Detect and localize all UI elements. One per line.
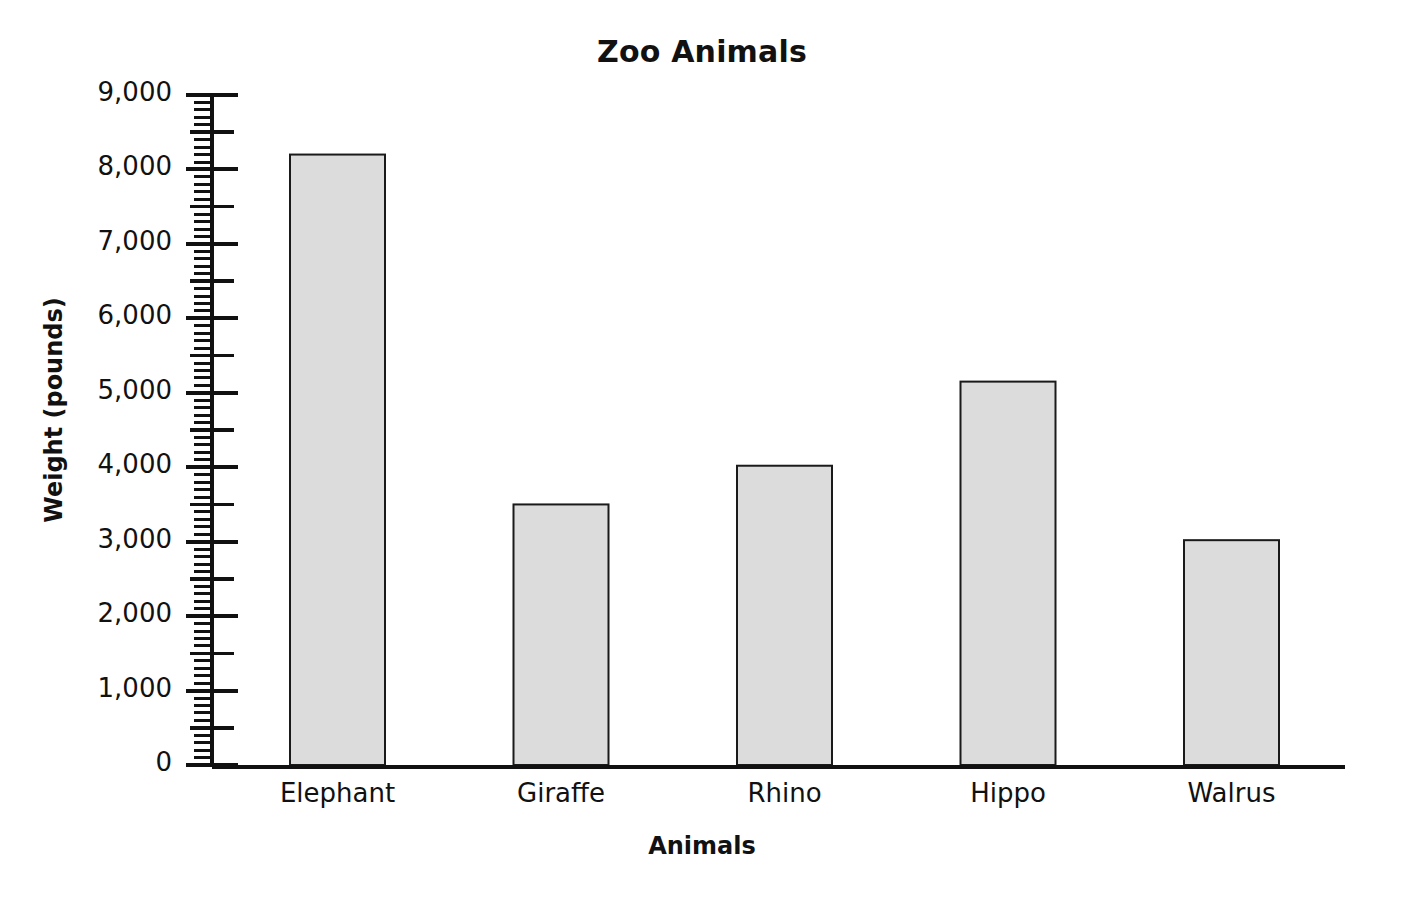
x-tick-label: Walrus xyxy=(1122,778,1342,808)
plot-area xyxy=(0,0,1404,901)
y-tick-label: 4,000 xyxy=(32,449,172,479)
y-tick-label: 0 xyxy=(32,747,172,777)
bar xyxy=(290,155,385,765)
y-tick-label: 6,000 xyxy=(32,300,172,330)
x-tick-label: Giraffe xyxy=(451,778,671,808)
y-tick-label: 2,000 xyxy=(32,598,172,628)
x-tick-label: Elephant xyxy=(228,778,448,808)
bar xyxy=(961,382,1056,765)
x-tick-label: Hippo xyxy=(898,778,1118,808)
y-tick-label: 7,000 xyxy=(32,226,172,256)
bar xyxy=(1184,540,1279,765)
chart-container: Zoo Animals Weight (pounds) Animals 01,0… xyxy=(0,0,1404,901)
bar xyxy=(514,504,609,765)
y-tick-label: 3,000 xyxy=(32,524,172,554)
y-tick-label: 9,000 xyxy=(32,77,172,107)
bars-group xyxy=(290,155,1279,765)
y-tick-label: 5,000 xyxy=(32,375,172,405)
bar xyxy=(737,466,832,765)
x-tick-label: Rhino xyxy=(675,778,895,808)
y-tick-label: 8,000 xyxy=(32,151,172,181)
y-tick-label: 1,000 xyxy=(32,673,172,703)
